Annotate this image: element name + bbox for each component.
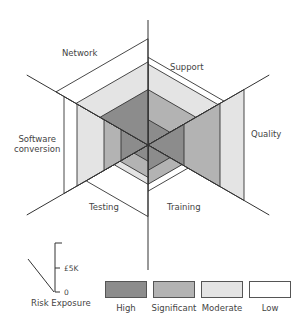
scale-tick-5k: £5K (64, 264, 78, 273)
scale-tick-0: 0 (64, 288, 69, 297)
legend-label-significant: Significant (149, 303, 199, 313)
software-label-line2: conversion (14, 144, 60, 154)
legend-label-moderate: Moderate (197, 303, 247, 313)
risk-exposure-scale-graphic (28, 243, 62, 292)
software-label-line1: Software (14, 134, 60, 144)
axis-label-support: Support (170, 62, 204, 72)
risk-radar-chart: Network Support Software conversion Qual… (0, 0, 308, 324)
legend-swatch-low (249, 281, 291, 298)
legend-swatch-high (105, 281, 147, 298)
sector-bands (56, 39, 244, 217)
legend-label-low: Low (245, 303, 295, 313)
scale-label-risk-exposure: Risk Exposure (31, 298, 91, 308)
axis-label-testing: Testing (89, 202, 119, 212)
axis-label-software-conversion: Software conversion (14, 134, 60, 154)
legend-swatch-moderate (201, 281, 243, 298)
axis-label-quality: Quality (251, 129, 281, 139)
axis-label-training: Training (167, 202, 201, 212)
legend-label-high: High (101, 303, 151, 313)
axis-label-network: Network (62, 48, 98, 58)
legend-swatch-significant (153, 281, 195, 298)
hexagon-chart-graphic (0, 0, 308, 324)
